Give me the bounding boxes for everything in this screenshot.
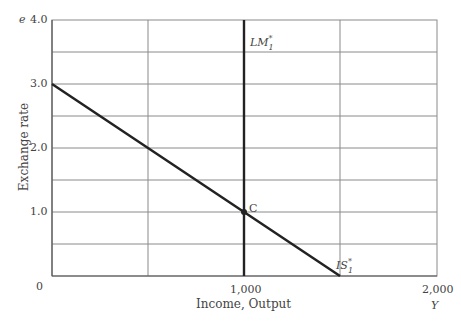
equilibrium-point (241, 209, 247, 215)
point-c-label: C (249, 202, 257, 215)
y-tick-2: 2.0 (30, 141, 48, 154)
y-tick-1: 1.0 (30, 205, 48, 218)
x-axis-symbol: Y (431, 299, 438, 312)
y-tick-3: 3.0 (30, 77, 48, 90)
chart-plot-area (0, 0, 461, 321)
origin-label: 0 (36, 280, 43, 293)
x-tick-1000: 1,000 (230, 283, 262, 296)
lm-label: LM*1 (250, 36, 278, 49)
y-axis-symbol: e (19, 13, 26, 26)
x-tick-2000: 2,000 (422, 283, 454, 296)
y-tick-4: 4.0 (30, 13, 48, 26)
x-axis-title: Income, Output (196, 297, 291, 311)
y-axis-title: Exchange rate (17, 97, 31, 197)
is-label: IS*1 (336, 259, 357, 272)
